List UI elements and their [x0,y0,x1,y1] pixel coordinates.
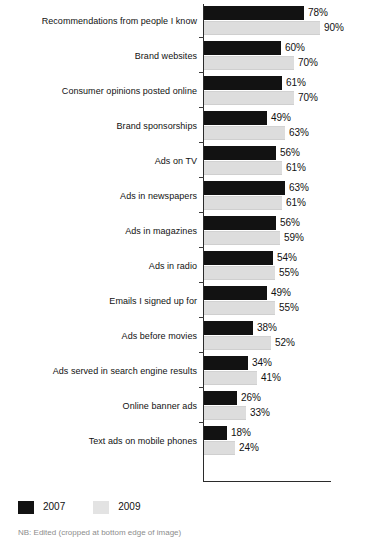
axis-tick [199,387,204,388]
bar-2007 [204,146,276,160]
legend-swatch-icon [93,501,109,514]
bar-2009 [204,266,275,280]
bar-2009 [204,231,280,245]
axis-tick [199,142,204,143]
bar-2009 [204,371,257,385]
x-axis-line [203,481,331,482]
bar-row-group: Online banner ads26%33% [0,389,376,424]
bar-row-group: Ads in magazines56%59% [0,214,376,249]
bar-value-label: 55% [275,266,299,280]
bar-track: 70% [204,56,354,70]
bar-row-group: Brand websites60%70% [0,39,376,74]
bar-track: 41% [204,371,317,385]
plot-area: Recommendations from people I know78%90%… [0,0,376,492]
bar-2009 [204,406,246,420]
bar-2007 [204,426,227,440]
axis-tick [199,422,204,423]
bar-value-label: 49% [267,111,291,125]
category-label: Emails I signed up for [0,284,197,319]
bar-row-group: Emails I signed up for49%55% [0,284,376,319]
bar-track: 55% [204,301,335,315]
bar-track: 33% [204,406,306,420]
chart-legend: 20072009 [18,498,169,516]
bar-2009 [204,301,275,315]
bar-value-label: 26% [237,391,261,405]
bar-2007 [204,356,248,370]
bar-track: 63% [204,181,345,195]
bar-track: 56% [204,146,336,160]
bar-chart: Recommendations from people I know78%90%… [0,0,376,537]
bar-track: 34% [204,356,308,370]
bar-2007 [204,251,273,265]
category-label: Brand websites [0,39,197,74]
bar-track: 18% [204,426,287,440]
bar-track: 61% [204,161,342,175]
bar-value-label: 33% [246,406,270,420]
bar-value-label: 63% [285,181,309,195]
bar-2007 [204,321,253,335]
bar-track: 78% [204,6,364,20]
axis-tick [199,282,204,283]
bar-value-label: 61% [282,76,306,90]
bar-row-group: Ads served in search engine results34%41… [0,354,376,389]
bar-2009 [204,196,282,210]
bar-track: 38% [204,321,313,335]
bar-track: 63% [204,126,345,140]
category-label: Ads in newspapers [0,179,197,214]
bar-row-group: Ads in newspapers63%61% [0,179,376,214]
bar-track: 24% [204,441,295,455]
category-label: Recommendations from people I know [0,4,197,39]
bar-value-label: 18% [227,426,251,440]
bar-2009 [204,161,282,175]
axis-tick [199,352,204,353]
bar-value-label: 55% [275,301,299,315]
bar-2007 [204,111,267,125]
bar-value-label: 54% [273,251,297,265]
bar-value-label: 78% [304,6,328,20]
legend-label: 2009 [118,501,140,513]
category-label: Consumer opinions posted online [0,74,197,109]
bar-track: 61% [204,196,342,210]
category-label: Ads in magazines [0,214,197,249]
axis-tick [199,212,204,213]
bar-row-group: Ads in radio54%55% [0,249,376,284]
category-label: Ads before movies [0,319,197,354]
bar-2007 [204,391,237,405]
bar-value-label: 61% [282,161,306,175]
category-label: Online banner ads [0,389,197,424]
bar-2009 [204,56,294,70]
legend-swatch-icon [18,501,34,514]
bar-2007 [204,76,282,90]
bar-track: 70% [204,91,354,105]
axis-tick [199,72,204,73]
bar-value-label: 90% [320,21,344,35]
bar-track: 49% [204,286,327,300]
axis-tick [199,317,204,318]
bar-value-label: 61% [282,196,306,210]
bar-track: 26% [204,391,297,405]
bar-value-label: 60% [281,41,305,55]
bar-track: 90% [204,21,376,35]
bar-value-label: 59% [280,231,304,245]
bar-value-label: 63% [285,126,309,140]
bar-2009 [204,91,294,105]
bar-2007 [204,41,281,55]
bar-track: 52% [204,336,331,350]
bar-value-label: 49% [267,286,291,300]
bar-track: 61% [204,76,342,90]
category-label: Ads on TV [0,144,197,179]
bar-2009 [204,336,271,350]
bar-track: 54% [204,251,333,265]
category-label: Brand sponsorships [0,109,197,144]
bar-2007 [204,181,285,195]
bar-row-group: Recommendations from people I know78%90% [0,4,376,39]
bar-value-label: 56% [276,146,300,160]
bar-value-label: 38% [253,321,277,335]
chart-footnote: NB: Edited (cropped at bottom edge of im… [18,528,358,537]
axis-tick [199,247,204,248]
bar-2007 [204,216,276,230]
legend-item: 2009 [93,501,140,514]
bar-2007 [204,286,267,300]
category-label: Ads in radio [0,249,197,284]
axis-tick [199,107,204,108]
